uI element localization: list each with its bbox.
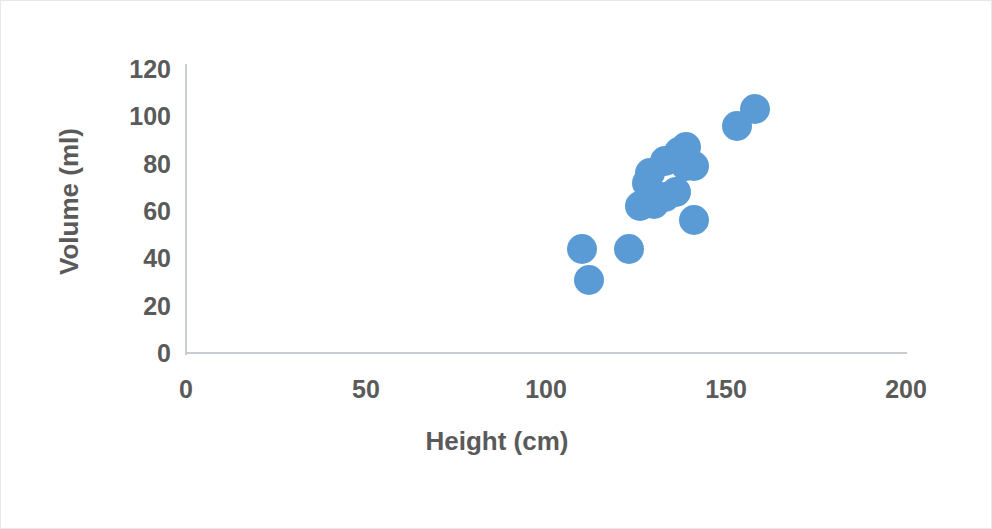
data-point-marker [740, 94, 770, 124]
x-tick-label: 200 [885, 375, 927, 404]
x-tick-label: 0 [179, 375, 193, 404]
y-tick-label: 40 [143, 244, 171, 273]
x-axis-title: Height (cm) [1, 426, 992, 457]
data-point-marker [614, 234, 644, 264]
plot-area [186, 69, 906, 353]
x-tick-label: 100 [525, 375, 567, 404]
y-tick-label: 100 [129, 102, 171, 131]
data-point-marker [671, 132, 701, 162]
x-tick-label: 50 [352, 375, 380, 404]
y-axis-title-wrapper: Volume (ml) [54, 82, 85, 322]
data-point-marker [567, 234, 597, 264]
x-tick-label: 150 [705, 375, 747, 404]
y-tick-label: 20 [143, 291, 171, 320]
scatter-chart: 020406080100120 050100150200 Volume (ml)… [0, 0, 992, 529]
data-point-marker [661, 177, 691, 207]
data-point-marker [574, 265, 604, 295]
y-tick-label: 60 [143, 197, 171, 226]
y-tick-label: 120 [129, 55, 171, 84]
y-tick-label: 0 [157, 339, 171, 368]
y-tick-label: 80 [143, 149, 171, 178]
y-axis-title: Volume (ml) [54, 128, 84, 275]
data-point-marker [679, 205, 709, 235]
